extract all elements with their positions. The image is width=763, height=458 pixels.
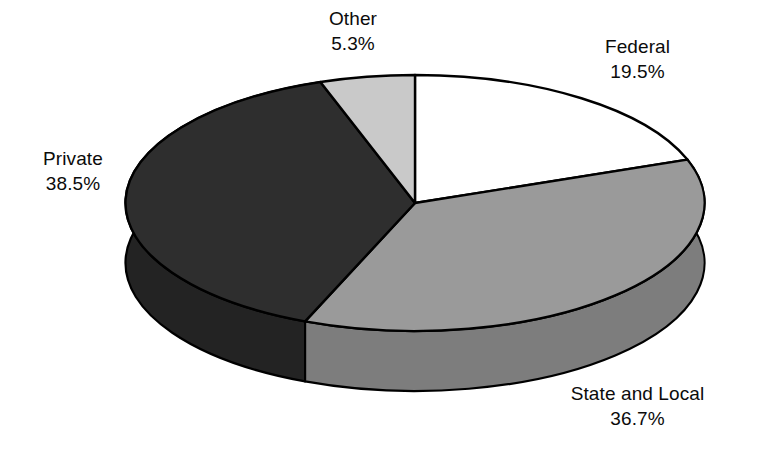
slice-label-state-and-local-name: State and Local [530,381,745,406]
slice-label-federal-value: 19.5% [560,59,715,84]
pie-chart: Other 5.3% Federal 19.5% Private 38.5% S… [0,0,763,458]
pie-top-faces [125,75,704,331]
slice-label-private-value: 38.5% [8,171,138,196]
slice-label-other: Other 5.3% [288,6,418,56]
slice-label-federal-name: Federal [560,34,715,59]
slice-label-private-name: Private [8,146,138,171]
slice-label-other-value: 5.3% [288,31,418,56]
slice-label-federal: Federal 19.5% [560,34,715,84]
slice-label-state-and-local-value: 36.7% [530,406,745,431]
slice-label-private: Private 38.5% [8,146,138,196]
slice-label-other-name: Other [288,6,418,31]
slice-label-state-and-local: State and Local 36.7% [530,381,745,431]
